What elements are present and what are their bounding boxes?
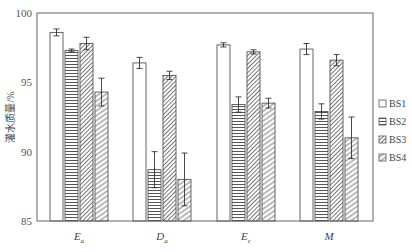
x-category-label: M (323, 230, 334, 242)
bar-BS2 (315, 111, 328, 221)
bar-BS2 (232, 105, 245, 221)
y-tick-label: 90 (21, 146, 33, 158)
legend-label: BS4 (389, 152, 406, 163)
x-category-label: Ec (240, 230, 252, 245)
y-axis-label: 灌水质量/% (5, 91, 16, 142)
legend-swatch (379, 154, 386, 161)
bar-BS1 (300, 49, 313, 221)
x-category-label: Ea (73, 230, 85, 245)
bar-group-E_a (50, 29, 108, 221)
legend-swatch (379, 100, 386, 107)
bar-BS3 (330, 60, 343, 221)
x-category-label: Da (155, 230, 168, 245)
y-axis-tick-labels: 859095100 (16, 7, 33, 227)
bar-chart: 859095100 EaDaEcM 灌水质量/% BS1BS2BS3BS4 (0, 0, 412, 252)
y-tick-label: 95 (21, 76, 33, 88)
y-tick-label: 100 (16, 7, 33, 19)
bar-BS3 (163, 75, 176, 221)
bar-BS4 (262, 103, 275, 221)
legend-swatch (379, 118, 386, 125)
legend: BS1BS2BS3BS4 (379, 98, 406, 163)
y-tick-label: 85 (21, 215, 33, 227)
x-axis-category-labels: EaDaEcM (73, 230, 335, 245)
legend-item-BS1: BS1 (379, 98, 406, 109)
legend-label: BS2 (389, 116, 406, 127)
bar-group-M (300, 44, 358, 221)
bar-group-E_c (217, 43, 275, 221)
bar-BS1 (133, 63, 146, 221)
legend-item-BS4: BS4 (379, 152, 406, 163)
plot-bars (50, 29, 358, 221)
bar-group-D_a (133, 57, 191, 221)
bar-BS1 (50, 32, 63, 221)
bar-BS2 (65, 50, 78, 221)
legend-label: BS3 (389, 134, 406, 145)
bar-BS1 (217, 45, 230, 221)
legend-item-BS3: BS3 (379, 134, 406, 145)
legend-swatch (379, 136, 386, 143)
legend-label: BS1 (389, 98, 406, 109)
bar-BS3 (247, 52, 260, 221)
bar-BS4 (95, 92, 108, 221)
legend-item-BS2: BS2 (379, 116, 406, 127)
bar-BS3 (80, 44, 93, 221)
